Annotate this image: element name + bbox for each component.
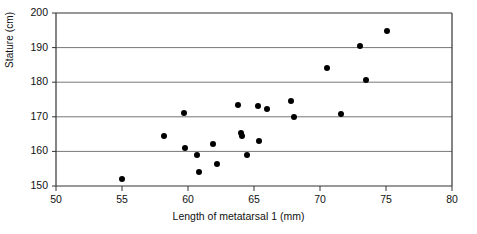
data-point [181,110,187,116]
plot-axes-svg [0,0,477,234]
x-axis-label-text: Length of metatarsal 1 (mm) [173,210,305,222]
data-point [196,169,202,175]
data-point [363,77,369,83]
data-point [235,102,241,108]
tickmark-group [52,13,452,191]
data-point [255,103,261,109]
data-point [291,114,297,120]
data-point [239,133,245,139]
data-point [256,138,262,144]
data-point [324,65,330,71]
x-axis-label: Length of metatarsal 1 (mm) [0,210,477,222]
data-point [357,43,363,49]
gridline-group [56,48,452,152]
scatter-plot-figure: Stature (cm) 150160170180190200 50556065… [0,0,477,234]
plot-frame [56,13,452,186]
